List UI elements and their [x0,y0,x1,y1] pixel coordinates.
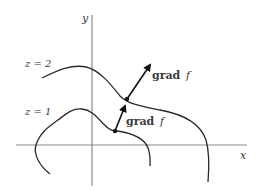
level-curve-label-z2: z = 2 [24,58,51,69]
x-axis-label: x [240,149,247,162]
gradient-label-z1: grad f [126,115,166,128]
level-curve-label-z1: z = 1 [24,106,51,117]
y-axis-label: y [81,12,89,25]
gradient-label-z2: grad f [152,69,192,82]
gradient-arrow-z2 [127,65,150,99]
gradient-arrow-z1 [115,106,125,131]
level-curves-diagram: y x z = 2 z = 1 grad f grad f [0,0,261,191]
